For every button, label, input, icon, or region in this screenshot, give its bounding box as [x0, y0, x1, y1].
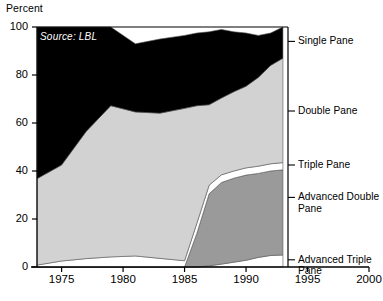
stacked-area-chart: Percent Source: LBL 020406080100 1975198… — [0, 0, 383, 301]
legend-label-advanced-triple: Advanced Triple Pane — [298, 254, 372, 276]
y-tick-label: 80 — [2, 68, 28, 80]
x-tick-label: 1985 — [165, 273, 205, 285]
y-tick-label: 100 — [2, 20, 28, 32]
legend-label-advanced-double: Advanced Double Pane — [298, 191, 379, 213]
x-tick-label: 1990 — [226, 273, 266, 285]
y-tick-label: 20 — [2, 212, 28, 224]
x-tick-label: 1975 — [42, 273, 82, 285]
y-tick-label: 40 — [2, 164, 28, 176]
legend-label-single-pane: Single Pane — [298, 35, 354, 46]
legend-label-triple-pane: Triple Pane — [298, 159, 350, 170]
y-tick-label: 0 — [2, 260, 28, 272]
y-tick-label: 60 — [2, 116, 28, 128]
x-tick-label: 1980 — [103, 273, 143, 285]
legend-label-double-pane: Double Pane — [298, 105, 357, 116]
source-note: Source: LBL — [40, 31, 97, 42]
